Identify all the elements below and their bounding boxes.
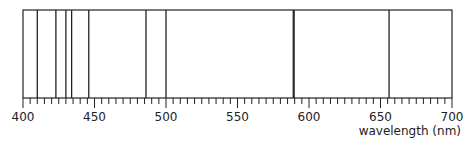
axis-tick-label: 400 bbox=[12, 110, 35, 124]
axis-ticks bbox=[23, 98, 452, 108]
axis-tick-label: 600 bbox=[298, 110, 321, 124]
spectrum-box bbox=[23, 10, 452, 98]
axis-label: wavelength (nm) bbox=[359, 124, 461, 138]
spectrum-diagram: 400450500550600650700 wavelength (nm) bbox=[0, 0, 475, 145]
axis-tick-label: 450 bbox=[83, 110, 106, 124]
axis-tick-label: 650 bbox=[369, 110, 392, 124]
axis-tick-labels: 400450500550600650700 bbox=[12, 110, 464, 124]
axis-tick-label: 700 bbox=[441, 110, 464, 124]
axis-tick-label: 500 bbox=[155, 110, 178, 124]
axis-tick-label: 550 bbox=[226, 110, 249, 124]
spectral-lines bbox=[37, 10, 389, 98]
